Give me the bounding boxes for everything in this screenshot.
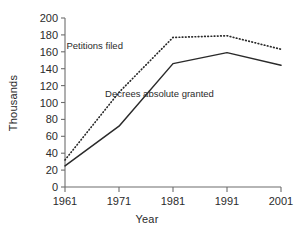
y-axis-tick-marks (61, 18, 65, 187)
series-line-decrees-absolute-granted (65, 53, 281, 166)
line-chart-plot: 020406080100120140160180200 196119711981… (0, 0, 294, 233)
annotation-label-1: Decrees absolute granted (105, 88, 214, 99)
x-axis-tick-marks (65, 187, 281, 192)
y-tick-label: 180 (40, 29, 58, 41)
y-tick-label: 0 (52, 181, 58, 193)
y-tick-label: 80 (46, 113, 58, 125)
y-tick-label: 200 (40, 12, 58, 24)
annotation-label-0: Petitions filed (66, 40, 123, 51)
y-tick-label: 40 (46, 147, 58, 159)
x-tick-label: 1961 (53, 195, 77, 207)
y-tick-label: 140 (40, 63, 58, 75)
x-tick-label: 1981 (161, 195, 185, 207)
y-tick-label: 60 (46, 130, 58, 142)
y-axis-tick-labels: 020406080100120140160180200 (40, 12, 58, 193)
series-annotations: Petitions filedDecrees absolute granted (66, 40, 213, 98)
y-tick-label: 20 (46, 164, 58, 176)
y-tick-label: 120 (40, 80, 58, 92)
y-tick-label: 160 (40, 46, 58, 58)
y-tick-label: 100 (40, 97, 58, 109)
x-tick-label: 1971 (107, 195, 131, 207)
x-tick-label: 2001 (269, 195, 293, 207)
chart-figure: Thousands Year 0204060801001201401601802… (0, 0, 294, 233)
x-axis-tick-labels: 19611971198119912001 (53, 195, 293, 207)
x-tick-label: 1991 (215, 195, 239, 207)
